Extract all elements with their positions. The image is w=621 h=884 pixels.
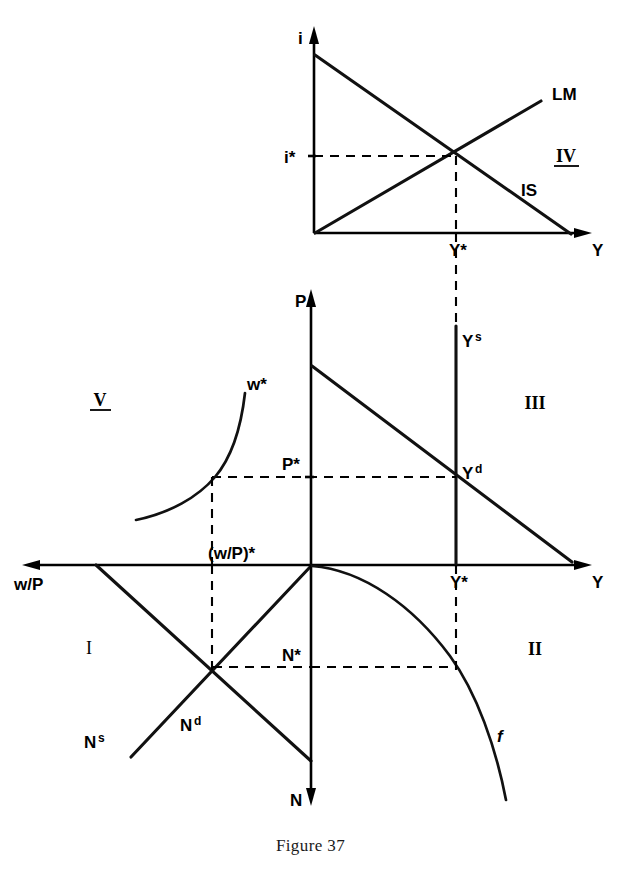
- quadrant-i-group: w/P N s N d (w/P)* I: [13, 544, 311, 761]
- nd-curve-label-base: N: [180, 716, 192, 735]
- lm-curve-label: LM: [552, 85, 577, 104]
- p-star-label: P*: [282, 455, 300, 474]
- nd-curve-label-group: N d: [180, 714, 201, 735]
- ns-curve-label-group: N s: [84, 731, 105, 752]
- quadrant-iv-group: i Y LM IS i* Y* IV: [284, 26, 604, 260]
- yd-curve-label-sup: d: [475, 462, 482, 476]
- quadrant-label-i: I: [86, 638, 92, 658]
- w-star-curve: [136, 393, 245, 520]
- ys-curve-label-sup: s: [475, 330, 482, 344]
- yd-curve-label-group: Y d: [462, 462, 482, 483]
- ns-curve-label-base: N: [84, 733, 96, 752]
- quadrant-label-iii: III: [524, 393, 545, 413]
- four-quadrant-diagram: i Y LM IS i* Y* IV: [0, 0, 621, 884]
- n-star-label: N*: [282, 646, 301, 665]
- w-star-curve-label: w*: [246, 375, 267, 394]
- is-curve: [315, 55, 571, 234]
- quadrant-ii-group: N N* Y* f II: [282, 565, 542, 810]
- quadrant-label-iv: IV: [556, 146, 576, 166]
- is-curve-label: IS: [521, 181, 537, 200]
- p-axis-label: P: [295, 292, 306, 311]
- i-axis-arrowhead: [309, 26, 319, 44]
- wp-axis-arrowhead: [22, 560, 40, 570]
- ys-curve-label-group: Y s: [462, 330, 482, 351]
- quadrant-label-ii: II: [528, 639, 542, 659]
- f-curve: [312, 566, 506, 800]
- f-curve-label: f: [497, 727, 505, 746]
- figure-root: i Y LM IS i* Y* IV: [0, 0, 621, 884]
- y-star-top-label: Y*: [449, 241, 467, 260]
- y-axis-mid-arrowhead: [574, 560, 592, 570]
- ns-curve-label-sup: s: [98, 731, 105, 745]
- y-axis-top-label: Y: [592, 241, 604, 260]
- n-axis-label: N: [290, 791, 302, 810]
- ns-curve: [96, 565, 311, 761]
- wp-star-label: (w/P)*: [208, 544, 256, 563]
- p-axis-arrowhead: [306, 289, 316, 307]
- y-axis-top-arrowhead: [574, 228, 592, 238]
- quadrant-iii-group: P Y Y s Y d P* III: [212, 289, 604, 592]
- y-axis-mid-label: Y: [592, 573, 604, 592]
- quadrant-v-group: w* V: [90, 375, 267, 565]
- yd-curve-label-base: Y: [462, 464, 474, 483]
- quadrant-label-v: V: [94, 390, 107, 410]
- i-star-label: i*: [284, 148, 296, 167]
- y-star-mid-label: Y*: [450, 573, 468, 592]
- wp-axis-label: w/P: [13, 575, 43, 594]
- figure-caption: Figure 37: [0, 836, 621, 856]
- i-axis-label: i: [298, 29, 303, 48]
- n-axis-arrowhead: [306, 788, 316, 806]
- ys-curve-label-base: Y: [462, 332, 474, 351]
- lm-curve: [315, 101, 541, 233]
- nd-curve-label-sup: d: [194, 714, 201, 728]
